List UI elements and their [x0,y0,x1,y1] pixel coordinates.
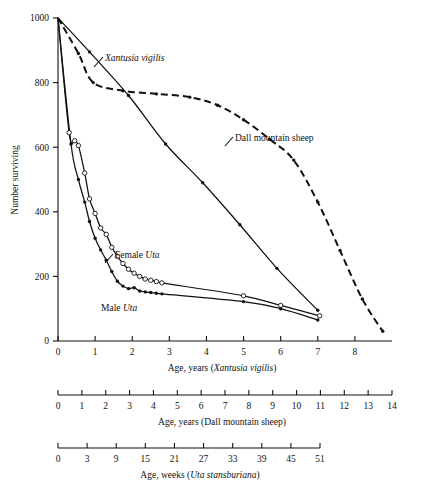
x-dall-tick-label: 14 [387,401,397,411]
series-marker-3 [155,291,158,294]
series-marker-2 [87,197,91,201]
y-tick-label: 200 [35,272,50,282]
series-marker-3 [138,289,141,292]
series-marker-2 [67,130,71,134]
series-marker-0 [238,223,241,226]
x-axis-dall-ticks: 01234567891011121314 [56,390,397,411]
x-axis-uta-label-italic: Uta stansburiana [190,470,256,480]
series-marker-3 [127,287,130,290]
x-uta-tick-label: 9 [114,454,119,464]
x-dall-tick-label: 5 [175,401,180,411]
x-dall-tick-label: 2 [103,401,108,411]
series-marker-3 [242,300,245,303]
y-tick-label: 800 [35,78,50,88]
series-marker-2 [98,226,102,230]
series-marker-1 [121,89,124,92]
x-uta-tick-label: 33 [228,454,238,464]
series-marker-0 [201,181,204,184]
series-marker-2 [126,267,130,271]
x-uta-tick-label: 0 [56,454,61,464]
x-uta-tick-label: 15 [141,454,151,464]
x-dall-tick-label: 0 [56,401,61,411]
x-axis-uta-ticks: 03915212733394551 [56,443,325,464]
series-marker-1 [155,92,158,95]
y-tick-label: 600 [35,143,50,153]
series-marker-1 [338,249,341,252]
series-marker-0 [275,267,278,270]
series-marker-3 [69,142,72,145]
x-tick-primary-label: 2 [130,347,135,357]
x-tick-primary-label: 6 [278,347,283,357]
x-tick-primary-label: 7 [315,347,320,357]
series-marker-3 [144,290,147,293]
series-marker-1 [292,158,295,161]
y-axis: 02004006008001000 Number surviving [10,13,58,346]
x-dall-tick-label: 1 [79,401,84,411]
series-marker-2 [154,279,158,283]
x-tick-primary-label: 8 [353,347,358,357]
annotation-dall-leader [225,137,233,146]
series-marker-2 [104,232,108,236]
x-tick-primary-label: 4 [204,347,209,357]
x-dall-tick-label: 11 [316,401,325,411]
annotation-xantusia: Xantusia vigilis [104,53,165,63]
series-marker-3 [83,200,86,203]
x-axis-uta-label-prefix: Age, weeks ( [140,470,190,481]
series-marker-0 [316,309,319,312]
y-axis-label: Number surviving [10,145,20,215]
x-tick-primary-label: 3 [167,347,172,357]
annotation-female-uta-prefix: Female [115,250,145,260]
series-marker-1 [77,52,80,55]
x-uta-tick-label: 39 [257,454,267,464]
x-uta-tick-label: 51 [315,454,325,464]
series-marker-1 [381,330,384,333]
x-axis-primary: 012345678 Age, years (Xantusia vigilis) [56,336,392,374]
series-marker-0 [88,50,91,53]
series-marker-3 [88,220,91,223]
series-marker-3 [99,248,102,251]
y-tick-label: 400 [35,207,50,217]
annotation-male-uta: Male Uta [101,303,137,313]
series-marker-2 [76,143,80,147]
x-axis-primary-ticks: 012345678 [56,336,358,357]
series-marker-3 [316,318,319,321]
series-marker-3 [121,284,124,287]
annotation-dall: Dall mountain sheep [235,133,314,143]
x-tick-primary-label: 1 [93,347,98,357]
series-marker-3 [116,280,119,283]
series-marker-3 [149,291,152,294]
x-uta-tick-label: 45 [286,454,296,464]
series-marker-0 [127,94,130,97]
series-marker-2 [143,277,147,281]
series-marker-2 [83,171,87,175]
data-markers [67,50,384,333]
series-marker-1 [216,104,219,107]
y-tick-label: 1000 [30,13,49,23]
x-axis-primary-label: Age, years (Xantusia vigilis) [168,363,277,374]
series-marker-2 [73,139,77,143]
series-marker-3 [110,270,113,273]
series-marker-2 [121,261,125,265]
series-marker-1 [188,95,191,98]
x-dall-tick-label: 13 [363,401,373,411]
series-marker-1 [242,118,245,121]
x-dall-tick-label: 10 [292,401,302,411]
series-marker-2 [241,294,245,298]
series-marker-2 [93,211,97,215]
x-dall-tick-label: 9 [270,401,275,411]
series-marker-3 [279,307,282,310]
annotation-female-uta: Female Uta [115,250,160,260]
series-marker-3 [77,178,80,181]
series-marker-2 [317,314,321,318]
survivorship-curve-chart: 02004006008001000 Number surviving 01234… [0,0,434,495]
series-marker-1 [92,81,95,84]
series-line-1 [58,18,383,331]
x-dall-tick-label: 7 [223,401,228,411]
figure-container: 02004006008001000 Number surviving 01234… [0,0,434,495]
series-marker-0 [164,142,167,145]
series-line-0 [58,18,318,310]
x-axis-primary-label-italic: Xantusia vigilis [213,363,274,373]
series-marker-1 [316,200,319,203]
annotation-male-uta-prefix: Male [101,303,123,313]
x-tick-primary-label: 0 [56,347,61,357]
